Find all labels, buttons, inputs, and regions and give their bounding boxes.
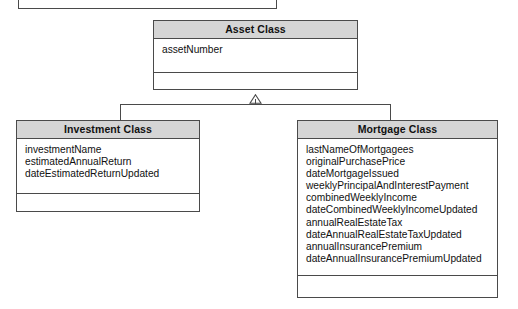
class-title-asset: Asset Class — [154, 21, 357, 39]
attribute-item: dateMortgageIssued — [306, 168, 497, 180]
attribute-item: combinedWeeklyIncome — [306, 192, 497, 204]
generalization-branch-mortgage — [390, 104, 391, 121]
class-box-mortgage[interactable]: Mortgage Class lastNameOfMortgagees orig… — [297, 120, 498, 298]
attribute-item: originalPurchasePrice — [306, 156, 497, 168]
class-attributes-mortgage: lastNameOfMortgagees originalPurchasePri… — [298, 139, 497, 276]
attribute-item: dateAnnualInsurancePremiumUpdated — [306, 253, 497, 265]
attribute-item: estimatedAnnualReturn — [25, 156, 199, 168]
class-attributes-investment: investmentName estimatedAnnualReturn dat… — [17, 139, 199, 194]
attribute-item: dateCombinedWeeklyIncomeUpdated — [306, 204, 497, 216]
class-operations-investment — [17, 194, 199, 211]
attribute-item: dateEstimatedReturnUpdated — [25, 168, 199, 180]
class-attributes-asset: assetNumber — [154, 39, 357, 73]
attribute-item: annualInsurancePremium — [306, 241, 497, 253]
attribute-item: weeklyPrincipalAndInterestPayment — [306, 180, 497, 192]
class-title-mortgage: Mortgage Class — [298, 121, 497, 139]
class-box-asset[interactable]: Asset Class assetNumber — [153, 20, 358, 90]
generalization-branch-investment — [120, 104, 121, 121]
class-box-investment[interactable]: Investment Class investmentName estimate… — [16, 120, 200, 212]
attribute-item: assetNumber — [162, 44, 357, 56]
attribute-item: investmentName — [25, 144, 199, 156]
partial-class-box-top — [18, 0, 277, 9]
class-operations-mortgage — [298, 276, 497, 297]
class-title-investment: Investment Class — [17, 121, 199, 139]
attribute-item: dateAnnualRealEstateTaxUpdated — [306, 229, 497, 241]
class-operations-asset — [154, 73, 357, 89]
attribute-item: lastNameOfMortgagees — [306, 144, 497, 156]
attribute-item: annualRealEstateTax — [306, 217, 497, 229]
uml-class-diagram: Asset Class assetNumber Investment Class… — [0, 0, 518, 309]
generalization-horizontal-bar — [120, 104, 390, 105]
